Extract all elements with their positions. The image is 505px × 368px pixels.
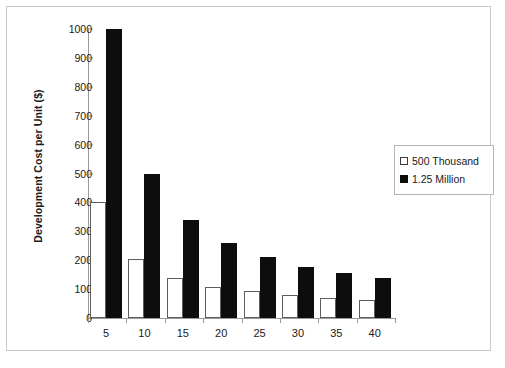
y-axis-tick-label: 0 [52,312,92,324]
y-axis-tick-label: 500 [52,168,92,180]
bar [144,174,160,319]
bar [359,300,375,318]
x-axis-tick-label: 20 [215,327,227,339]
x-axis-tick-mark [318,318,319,323]
x-axis-tick-mark [203,318,204,323]
bar [183,220,199,318]
y-axis-tick-label: 900 [52,52,92,64]
x-axis-tick-mark [88,318,89,323]
bar [282,295,298,318]
bar [90,202,106,318]
x-axis-tick-label: 30 [292,327,304,339]
y-axis-tick-label: 1000 [52,23,92,35]
bar [320,298,336,318]
legend-item-500-thousand: 500 Thousand [400,152,488,170]
x-axis-tick-label: 10 [138,327,150,339]
bar [167,278,183,318]
x-axis-tick-mark [242,318,243,323]
chart-legend: 500 Thousand 1.25 Million [394,145,494,195]
bar [221,243,237,318]
x-axis-tick-label: 25 [253,327,265,339]
y-axis-tick-label: 400 [52,196,92,208]
y-axis-tick-label: 700 [52,110,92,122]
bar [205,287,221,318]
bar [298,267,314,318]
x-axis-tick-mark [126,318,127,323]
bar [336,273,352,318]
y-axis-title: Development Cost per Unit ($) [32,56,44,276]
bar [244,291,260,318]
x-axis-tick-mark [357,318,358,323]
legend-item-1-25-million: 1.25 Million [400,170,488,188]
chart-screenshot: Development Cost per Unit ($) 0100200300… [0,0,505,368]
x-axis-tick-mark [395,318,396,323]
plot-area [88,29,395,318]
x-axis-tick-label: 40 [369,327,381,339]
y-axis-tick-label: 600 [52,139,92,151]
legend-label: 500 Thousand [412,155,479,167]
legend-label: 1.25 Million [412,173,465,185]
bar [260,257,276,318]
y-axis-tick-label: 100 [52,283,92,295]
x-axis-tick-label: 5 [103,327,109,339]
bar [106,29,122,318]
y-axis-tick-label: 800 [52,81,92,93]
bar [128,259,144,318]
y-axis-tick-label: 200 [52,254,92,266]
x-axis-tick-mark [165,318,166,323]
x-axis-tick-mark [280,318,281,323]
x-axis-tick-label: 15 [177,327,189,339]
y-axis-tick-label: 300 [52,225,92,237]
x-axis-tick-label: 35 [330,327,342,339]
legend-swatch-filled-square-icon [400,175,408,183]
bar [375,278,391,318]
bar-chart: Development Cost per Unit ($) 0100200300… [0,0,505,368]
legend-swatch-open-square-icon [400,157,408,165]
